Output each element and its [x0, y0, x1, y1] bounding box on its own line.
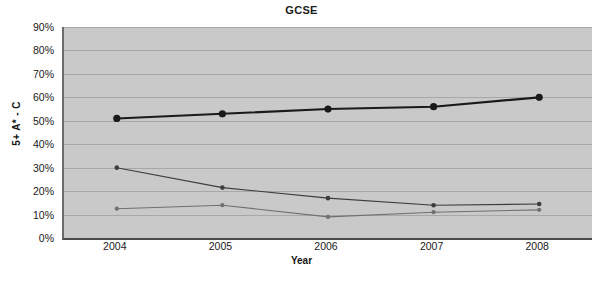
data-series-series-2: [115, 165, 542, 207]
y-axis-tick-label: 30%: [33, 162, 54, 174]
y-axis-tick-label: 20%: [33, 185, 54, 197]
data-point-marker: [430, 103, 437, 110]
x-axis-tick-label: 2007: [420, 240, 443, 252]
data-point-marker: [537, 202, 542, 207]
data-point-marker: [536, 94, 543, 101]
series-layer: [64, 27, 592, 238]
y-axis: 0%10%20%30%40%50%60%70%80%90%: [0, 27, 58, 238]
y-axis-tick-label: 0%: [39, 232, 54, 244]
data-point-marker: [326, 215, 330, 219]
data-point-marker: [537, 208, 541, 212]
x-axis-tick-label: 2005: [209, 240, 232, 252]
data-series-series-3: [115, 203, 542, 219]
data-point-marker: [326, 196, 331, 201]
y-axis-tick-label: 60%: [33, 91, 54, 103]
x-axis-tick-label: 2008: [526, 240, 549, 252]
y-axis-tick-label: 10%: [33, 209, 54, 221]
data-series-series-1: [113, 94, 543, 122]
data-point-marker: [219, 110, 226, 117]
y-axis-tick-label: 40%: [33, 138, 54, 150]
plot-area: [62, 27, 592, 240]
data-point-marker: [115, 207, 119, 211]
chart-title: GCSE: [0, 4, 603, 16]
x-axis-title: Year: [0, 255, 603, 266]
x-axis-tick-label: 2006: [314, 240, 337, 252]
x-axis-tick-label: 2004: [103, 240, 126, 252]
data-point-marker: [432, 210, 436, 214]
gcse-line-chart: GCSE 5+ A* - C 0%10%20%30%40%50%60%70%80…: [0, 0, 603, 284]
y-axis-tick-label: 70%: [33, 68, 54, 80]
y-axis-tick-label: 90%: [33, 21, 54, 33]
data-point-marker: [220, 185, 225, 190]
y-axis-tick-label: 50%: [33, 115, 54, 127]
data-point-marker: [220, 203, 224, 207]
data-point-marker: [324, 105, 331, 112]
y-axis-tick-label: 80%: [33, 44, 54, 56]
data-point-marker: [431, 203, 436, 208]
data-point-marker: [115, 165, 120, 170]
data-point-marker: [113, 115, 120, 122]
